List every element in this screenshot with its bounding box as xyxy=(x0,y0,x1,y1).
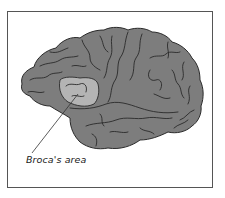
brain-illustration xyxy=(0,0,225,198)
brocas-area-label: Broca's area xyxy=(26,154,86,165)
